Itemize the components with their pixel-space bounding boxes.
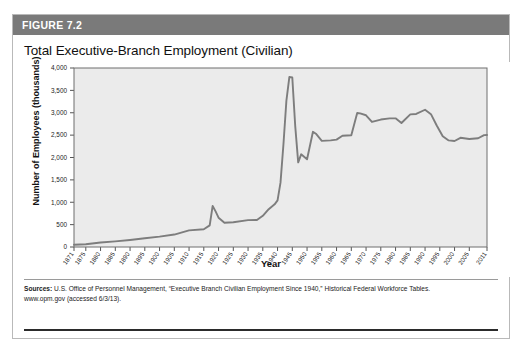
plot-panel [74, 68, 487, 247]
y-axis-title: Number of Employees (thousands) [31, 46, 41, 216]
figure-header: FIGURE 7.2 [13, 15, 509, 35]
source-note: Sources: U.S. Office of Personnel Manage… [13, 280, 509, 304]
svg-text:4,000: 4,000 [51, 64, 67, 71]
source-line-2: www.opm.gov (accessed 6/3/13). [24, 295, 121, 302]
svg-text:2,500: 2,500 [51, 131, 67, 138]
source-line-1: U.S. Office of Personnel Management, “Ex… [52, 285, 430, 292]
bottom-rule [24, 329, 498, 331]
svg-text:0: 0 [63, 243, 67, 250]
chart-plot-area: Number of Employees (thousands) 05001,00… [13, 62, 511, 277]
svg-text:3,000: 3,000 [51, 109, 67, 116]
svg-text:1,000: 1,000 [51, 199, 67, 206]
figure-card: FIGURE 7.2 Total Executive-Branch Employ… [12, 14, 510, 339]
employment-line-chart: 05001,0001,5002,0002,5003,0003,5004,000 … [13, 62, 511, 277]
chart-title: Total Executive-Branch Employment (Civil… [13, 35, 509, 62]
svg-text:500: 500 [56, 221, 67, 228]
svg-text:2,000: 2,000 [51, 154, 67, 161]
source-prefix: Sources: [24, 285, 52, 292]
svg-text:3,500: 3,500 [51, 87, 67, 94]
figure-number-label: FIGURE 7.2 [22, 19, 82, 31]
svg-text:1,500: 1,500 [51, 176, 67, 183]
x-axis-title: Year [13, 258, 511, 269]
